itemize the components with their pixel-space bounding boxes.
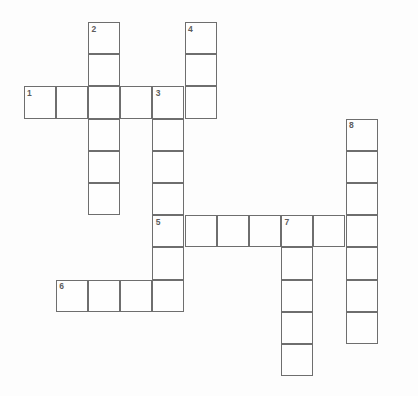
crossword-cell[interactable]: 7 <box>281 215 313 247</box>
crossword-cell[interactable] <box>152 183 184 215</box>
crossword-cell[interactable] <box>313 215 345 247</box>
cell-number-2: 2 <box>91 24 96 34</box>
cell-number-7: 7 <box>285 217 290 227</box>
crossword-cell[interactable] <box>56 86 88 118</box>
crossword-puzzle: 24138576 <box>0 0 418 396</box>
crossword-cell[interactable] <box>88 151 120 183</box>
crossword-cell[interactable] <box>88 280 120 312</box>
crossword-cell[interactable] <box>217 215 249 247</box>
cell-number-5: 5 <box>156 217 161 227</box>
crossword-cell[interactable] <box>281 312 313 344</box>
crossword-cell[interactable]: 6 <box>56 280 88 312</box>
crossword-cell[interactable] <box>88 119 120 151</box>
crossword-cell[interactable] <box>249 215 281 247</box>
crossword-cell[interactable] <box>346 312 378 344</box>
cell-number-4: 4 <box>188 24 193 34</box>
crossword-cell[interactable]: 4 <box>185 22 217 54</box>
crossword-cell[interactable] <box>281 247 313 279</box>
crossword-cell[interactable] <box>152 151 184 183</box>
crossword-cell[interactable] <box>88 54 120 86</box>
crossword-cell[interactable] <box>346 183 378 215</box>
crossword-cell[interactable] <box>346 280 378 312</box>
crossword-cell[interactable] <box>185 86 217 118</box>
crossword-cell[interactable] <box>346 151 378 183</box>
crossword-cell[interactable] <box>152 280 184 312</box>
crossword-cell[interactable]: 1 <box>24 86 56 118</box>
crossword-cell[interactable] <box>120 86 152 118</box>
crossword-cell[interactable] <box>185 54 217 86</box>
crossword-cell[interactable] <box>120 280 152 312</box>
crossword-cell[interactable]: 3 <box>152 86 184 118</box>
crossword-cell[interactable]: 8 <box>346 119 378 151</box>
crossword-cell[interactable] <box>152 247 184 279</box>
cell-number-3: 3 <box>156 88 161 98</box>
crossword-cell[interactable] <box>185 215 217 247</box>
cell-number-8: 8 <box>349 120 354 130</box>
crossword-cell[interactable] <box>88 86 120 118</box>
crossword-cell[interactable] <box>346 247 378 279</box>
cell-number-6: 6 <box>59 281 64 291</box>
crossword-cell[interactable] <box>152 119 184 151</box>
crossword-cell[interactable] <box>281 280 313 312</box>
crossword-cell[interactable] <box>88 183 120 215</box>
crossword-cell[interactable] <box>346 215 378 247</box>
crossword-cell[interactable] <box>281 344 313 376</box>
crossword-cell[interactable]: 5 <box>152 215 184 247</box>
cell-number-1: 1 <box>27 88 32 98</box>
crossword-grid[interactable]: 24138576 <box>0 0 418 396</box>
crossword-cell[interactable]: 2 <box>88 22 120 54</box>
